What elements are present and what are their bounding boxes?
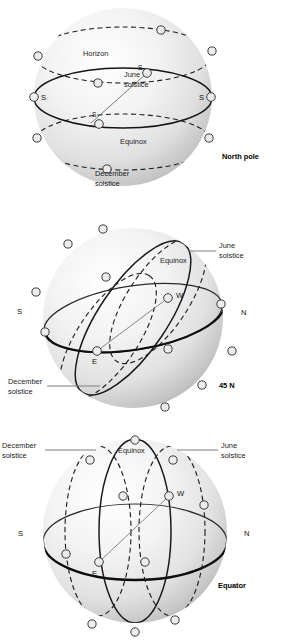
label-horizon: Horizon [83, 49, 108, 58]
marker [102, 273, 110, 281]
marker [131, 628, 139, 636]
marker [217, 300, 225, 308]
label-december-solstice-line2: solstice [95, 179, 120, 188]
label-direction-left-s: S [41, 93, 46, 102]
label-december-solstice-line2: solstice [8, 387, 33, 396]
marker [208, 47, 216, 55]
marker [64, 240, 72, 248]
label-june-solstice-line1: June [219, 241, 235, 250]
label-june-solstice-line2: solstice [221, 451, 246, 460]
label-direction-north: N [244, 529, 249, 538]
marker [32, 288, 40, 296]
marker [157, 26, 165, 34]
label-equinox: Equinox [160, 256, 187, 265]
marker [207, 93, 216, 102]
marker [200, 501, 208, 509]
celestial-sphere [43, 228, 223, 408]
label-june-solstice-line1: June [124, 70, 140, 79]
label-june-solstice-line2: solstice [124, 80, 149, 89]
marker [143, 69, 152, 78]
label-direction-south: S [18, 529, 23, 538]
marker [164, 294, 173, 303]
label-december-solstice-line2: solstice [2, 451, 27, 460]
label-equinox: Equinox [118, 446, 145, 455]
marker [141, 558, 149, 566]
marker [88, 620, 96, 628]
marker [205, 134, 213, 142]
label-equinox: Equinox [120, 137, 147, 146]
marker [33, 134, 41, 142]
label-direction-west: W [176, 291, 184, 300]
marker [41, 328, 49, 336]
marker [169, 456, 177, 464]
label-direction-west: W [177, 489, 185, 498]
label-direction-east: E [92, 357, 97, 366]
label-inner-lower-s: S [92, 111, 97, 118]
label-direction-north: N [241, 308, 246, 317]
label-direction-right-s: S [199, 93, 204, 102]
label-december-solstice-line1: December [8, 377, 43, 386]
marker [99, 225, 107, 233]
panel-caption-north-pole: North pole [222, 152, 259, 161]
marker [119, 492, 127, 500]
panel-caption-equator: Equator [218, 581, 246, 590]
label-june-solstice-line2: solstice [219, 251, 244, 260]
marker [161, 403, 169, 411]
label-june-solstice-line1: June [221, 441, 237, 450]
label-december-solstice-line1: December [2, 441, 37, 450]
marker [93, 347, 102, 356]
label-inner-upper-s: S [138, 64, 143, 71]
celestial-sphere [43, 439, 227, 623]
marker [171, 616, 179, 624]
marker [165, 492, 174, 501]
panel-45n: June solstice Equinox December solstice … [0, 208, 284, 424]
marker [94, 79, 102, 87]
marker [86, 456, 94, 464]
label-direction-south: S [17, 307, 22, 316]
marker [164, 345, 172, 353]
marker [228, 347, 236, 355]
panel-equator: December solstice Equinox June solstice … [0, 424, 284, 643]
marker [131, 436, 139, 444]
label-december-solstice-line1: December [95, 169, 130, 178]
marker [95, 120, 104, 129]
marker [198, 381, 206, 389]
marker [95, 558, 104, 567]
marker [62, 550, 70, 558]
marker [30, 93, 39, 102]
panel-north-pole: Horizon June solstice Equinox December s… [0, 0, 284, 212]
panel-caption-45n: 45 N [219, 381, 235, 390]
label-direction-east: E [92, 569, 97, 578]
marker [34, 52, 42, 60]
